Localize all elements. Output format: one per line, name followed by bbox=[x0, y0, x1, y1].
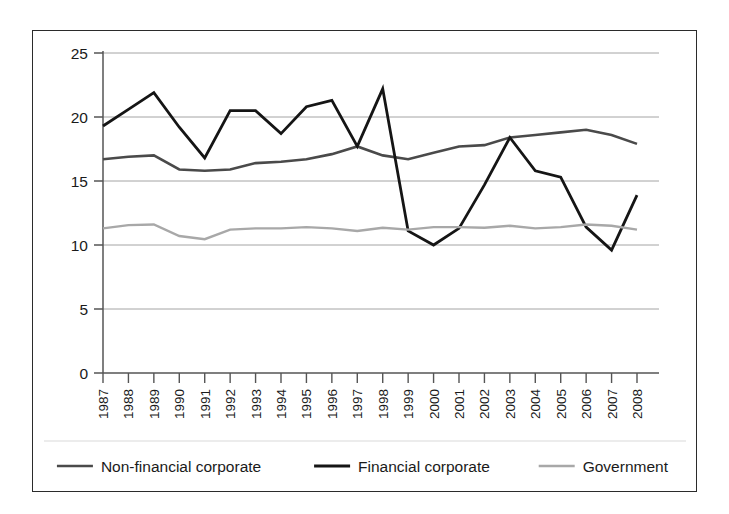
figure: 0510152025 19871988198919901991199219931… bbox=[0, 0, 729, 514]
chart-frame-border bbox=[32, 30, 697, 492]
